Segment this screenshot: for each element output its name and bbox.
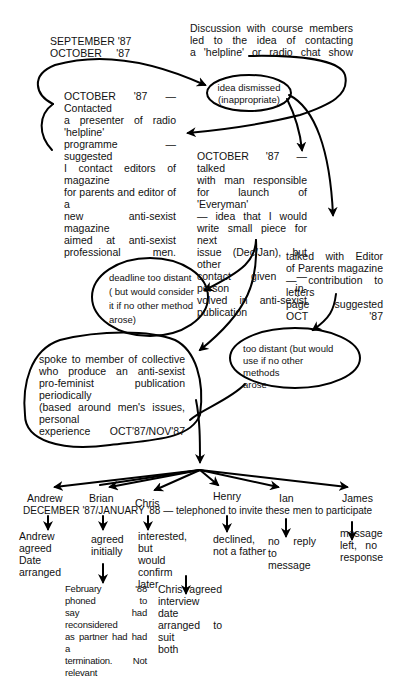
text-line: February '88 phoned to xyxy=(65,583,147,607)
outcome-brian: agreed initially xyxy=(91,533,131,557)
text-line: left, no xyxy=(340,539,377,551)
text-line: Chris agreed xyxy=(158,583,222,595)
participant-name-brian: Brian xyxy=(89,492,114,504)
text-line: it if no other method xyxy=(109,299,199,313)
outcome-henry: declined, not a father xyxy=(213,533,269,557)
text-line: agreed xyxy=(91,533,131,545)
text-line: led to the idea of contacting xyxy=(190,34,353,46)
followup-brian: February '88 phoned to say had reconside… xyxy=(65,583,147,679)
text-line: for parents and editor of a xyxy=(64,186,176,210)
text-line: new anti-sexist magazine xyxy=(64,210,176,234)
date-line: SEPTEMBER '87 xyxy=(50,35,131,47)
text-line: for launch of 'Everyman' xyxy=(197,186,307,210)
text-line: I contact editors of magazine xyxy=(64,162,176,186)
participant-name-andrew: Andrew xyxy=(27,492,63,504)
text-line: who produce an anti-sexist xyxy=(39,365,185,377)
text-line: page suggested OCT '87 xyxy=(286,298,383,322)
outcome-ian: no reply to message xyxy=(268,535,316,571)
collective-node: spoke to member of collective who produc… xyxy=(39,353,185,437)
participant-name-ian: Ian xyxy=(279,492,294,504)
date-line: OCTOBER '87 xyxy=(50,47,131,59)
text-line: OCTOBER '87 — Contacted xyxy=(64,90,176,114)
text-line: a presenter of radio 'helpline' xyxy=(64,114,176,138)
text-line: interested, but xyxy=(138,530,200,554)
participant-name-henry: Henry xyxy=(213,490,241,502)
parents-editor-node: talked with Editor of Parents magazine —… xyxy=(286,250,383,322)
text-line: talked with Editor xyxy=(286,250,383,262)
text-line: no reply xyxy=(268,535,316,547)
text-line: declined, xyxy=(213,533,269,545)
text-line: programme — suggested xyxy=(64,138,176,162)
outcome-chris: interested, but would confirm later xyxy=(138,530,200,590)
text-line: arranged to suit xyxy=(158,619,222,643)
text-line: say had reconsidered xyxy=(65,607,147,631)
radio-helpline-node: OCTOBER '87 — Contacted a presenter of r… xyxy=(64,90,176,258)
text-line: with man responsible xyxy=(197,174,307,186)
text-line: termination. Not relevant xyxy=(65,655,147,679)
text-line: use if no other methods xyxy=(243,355,338,379)
text-line: professional men. xyxy=(64,246,176,258)
text-line: interview date xyxy=(158,595,222,619)
text-line: — idea that I would xyxy=(197,210,307,222)
text-line: ( but would consider xyxy=(109,285,199,299)
date-header: SEPTEMBER '87 OCTOBER '87 xyxy=(50,35,131,59)
idea-dismissed-node: idea dismissed (inappropriate) xyxy=(209,82,289,106)
text-line: message xyxy=(340,527,377,539)
text-line: of Parents magazine xyxy=(286,262,383,274)
text-line: Andrew agreed xyxy=(19,530,83,554)
text-line: too distant (but would xyxy=(243,343,338,355)
text-line: (inappropriate) xyxy=(209,94,289,106)
followup-chris: Chris agreed interview date arranged to … xyxy=(158,583,222,655)
participant-name-james: James xyxy=(342,492,373,504)
text-line: initially xyxy=(91,545,131,557)
text-line: both xyxy=(158,643,222,655)
text-line: (based around men's issues, personal xyxy=(39,401,185,425)
text-line: OCTOBER '87 — talked xyxy=(197,150,307,174)
text-line: write small piece for next xyxy=(197,222,307,246)
deadline-node: deadline too distant ( but would conside… xyxy=(109,271,199,327)
text-line: a 'helpline' or radio chat show xyxy=(190,46,353,58)
text-line: response xyxy=(340,551,377,563)
telephone-note: DECEMBER '87/JANUARY '88 — telephoned to… xyxy=(23,505,372,517)
outcome-james: message left, no response xyxy=(340,527,377,563)
outcome-andrew: Andrew agreed Date arranged xyxy=(19,530,83,578)
text-line: deadline too distant xyxy=(109,271,199,285)
text-line: arose) xyxy=(109,313,199,327)
text-line: Date arranged xyxy=(19,554,83,578)
text-line: experience OCT'87/NOV'87 xyxy=(39,425,185,437)
text-fragment: experience xyxy=(39,425,90,437)
text-line: idea dismissed xyxy=(209,82,289,94)
text-line: aimed at anti-sexist xyxy=(64,234,176,246)
text-line: spoke to member of collective xyxy=(39,353,185,365)
text-line: as partner had had a xyxy=(65,631,147,655)
text-line: — contribution to letters xyxy=(286,274,383,298)
date-fragment: OCT'87/NOV'87 xyxy=(110,425,185,437)
text-line: would confirm xyxy=(138,554,200,578)
text-line: to message xyxy=(268,547,316,571)
too-distant-node: too distant (but would use if no other m… xyxy=(243,343,338,391)
text-line: not a father xyxy=(213,545,269,557)
text-line: Discussion with course members xyxy=(190,22,353,34)
text-line: pro-feminist publication periodically xyxy=(39,377,185,401)
text-line: arose xyxy=(243,379,338,391)
discussion-note: Discussion with course members led to th… xyxy=(190,22,353,58)
